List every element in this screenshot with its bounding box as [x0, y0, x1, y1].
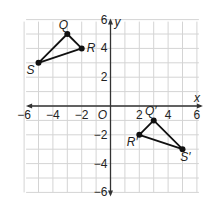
y-tick-label: 6: [101, 13, 108, 27]
y-tick-label: −6: [94, 185, 108, 199]
vertex-label: Q′: [145, 104, 157, 118]
vertex-label: R′: [127, 135, 139, 149]
x-tick-label: −2: [75, 108, 89, 122]
vertex-point: [36, 60, 42, 66]
x-tick-label: 2: [136, 108, 143, 122]
x-tick-label: −6: [17, 108, 31, 122]
vertex-label: S: [26, 63, 34, 77]
vertex-label: S′: [180, 150, 191, 164]
y-axis-label: y: [114, 15, 122, 29]
coordinate-plane: −6−4−2246642−2−4−6Oxy QRSQ′R′S′: [0, 0, 207, 206]
x-axis-label: x: [193, 91, 201, 105]
origin-label: O: [98, 108, 107, 122]
x-tick-label: 4: [165, 108, 172, 122]
x-tick-label: −4: [46, 108, 60, 122]
y-tick-label: 4: [101, 41, 108, 55]
y-axis-arrow-down-icon: [108, 190, 113, 196]
vertex-label: Q: [59, 18, 68, 32]
y-tick-label: −4: [94, 157, 108, 171]
vertex-point: [79, 45, 85, 51]
x-tick-label: 6: [194, 108, 201, 122]
y-tick-label: −2: [94, 128, 108, 142]
y-tick-label: 2: [101, 70, 108, 84]
vertex-label: R: [87, 41, 96, 55]
